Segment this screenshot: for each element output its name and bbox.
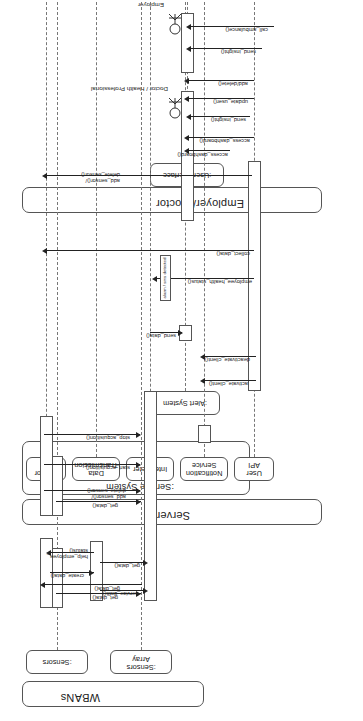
activation-notification-1	[198, 425, 211, 443]
message-line-m22	[46, 175, 252, 176]
message-arrow-m3	[40, 582, 45, 588]
lifeline-head-notification-service: Notification Service	[180, 457, 228, 481]
message-label-m13: activate_client()	[209, 381, 248, 387]
activation-interpreter-1	[144, 391, 157, 601]
message-label-m7: stop_acquisition()	[86, 435, 130, 441]
actor-label-doctor: Doctor / Health Professional	[91, 86, 168, 93]
message-arrow-m23	[186, 46, 191, 52]
lifeline-label-alert-system: :Alert System	[163, 399, 207, 407]
message-arrow-m16	[42, 248, 47, 254]
message-arrow-m19	[186, 114, 191, 120]
message-arrow-m12	[178, 330, 183, 336]
message-arrow-m6	[136, 462, 141, 468]
message-label-m11: service_data()	[103, 591, 138, 597]
message-arrow-m5	[136, 488, 141, 494]
message-label-m19: send_insight()	[211, 117, 246, 123]
note-label-alarm-detected: alarm / sms detected	[163, 258, 168, 299]
message-label-m16: collect_data()	[216, 251, 250, 257]
group-label-employer-doctor: Employer/ Doctor	[156, 198, 244, 210]
message-arrow-m20	[184, 96, 189, 102]
activation-user-interface-2	[181, 13, 194, 73]
message-label-m22: add_sensor()/ delete_sensor()	[81, 171, 120, 184]
lifeline-label-sensors: :Sensors	[42, 658, 71, 666]
diagram-canvas: WBANs Server Employer/ Doctor :Service S…	[0, 0, 363, 721]
lifeline-interpreter	[150, 2, 151, 457]
message-label-m4: get_data()	[115, 563, 141, 569]
message-arrow-m15	[152, 276, 157, 282]
message-arrow-m2	[136, 499, 141, 505]
message-arrow-m24	[186, 24, 191, 30]
rotated-wrapper: WBANs Server Employer/ Doctor :Service S…	[0, 0, 363, 721]
message-label-m21: add/delete()	[218, 81, 248, 87]
message-arrow-m7	[136, 432, 141, 438]
message-label-m2: get_data()	[93, 503, 119, 509]
lifeline-label-notification-service: Notification Service	[186, 461, 223, 477]
message-arrow-m9	[89, 570, 94, 576]
message-arrow-m11	[143, 588, 148, 594]
lifeline-label-sensors-array: :Sensors Array	[126, 654, 155, 670]
lifeline-head-sensors-array: :Sensors Array	[110, 650, 172, 674]
message-label-m15: employee_health_status()	[188, 279, 252, 285]
message-line-m3	[44, 584, 142, 585]
lifeline-data-trans	[96, 2, 97, 457]
message-label-m23: send_insight()	[221, 49, 256, 55]
message-label-m5: add_sensor()/ delete_sensor()	[87, 487, 126, 500]
group-label-wbans: WBANs	[61, 692, 101, 704]
message-arrow-m13	[200, 378, 205, 384]
lifeline-head-user-api: User API	[234, 457, 274, 481]
lifeline-sensors-array	[141, 2, 142, 650]
message-arrow-m22	[42, 173, 47, 179]
message-label-m9: create_data()	[51, 573, 84, 579]
message-label-m14: deactivate_client()	[205, 357, 250, 363]
group-box-wbans	[22, 681, 204, 707]
message-label-m24: call_ambulance()	[225, 27, 268, 33]
lifeline-head-sensors: :Sensors	[26, 650, 88, 674]
message-arrow-m4	[143, 560, 148, 566]
sequence-diagram: WBANs Server Employer/ Doctor :Service S…	[0, 0, 363, 721]
lifeline-head-alert-system: :Alert System	[150, 391, 220, 415]
message-label-m10: help_employee_ status()	[47, 547, 88, 560]
lifeline-label-user-api: User API	[246, 461, 262, 477]
activation-sensor-api-2	[40, 416, 53, 516]
message-label-m6: start_acquisition()	[86, 465, 130, 471]
message-label-m12: send_data()	[146, 333, 176, 339]
message-label-m17: access_dashboard()	[177, 152, 228, 158]
group-label-server: Server	[156, 510, 190, 522]
message-label-m20: update_user()	[213, 99, 248, 105]
lifeline-sensor-api	[46, 2, 47, 457]
note-alarm-detected: alarm / sms detected	[160, 255, 171, 301]
message-arrow-m18	[184, 135, 189, 141]
message-arrow-m21	[184, 78, 189, 84]
message-label-m18: access_dashboard()	[199, 138, 250, 144]
lifeline-notification	[204, 2, 205, 457]
